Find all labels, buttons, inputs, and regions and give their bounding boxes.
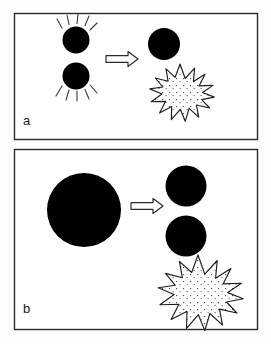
panel-a <box>15 14 258 140</box>
figure-canvas: a b <box>0 0 271 344</box>
panel-a-product-circle <box>148 28 180 60</box>
panel-b-daughter-circle-top <box>166 166 207 207</box>
panel-a-label: a <box>23 114 30 127</box>
panel-a-circle-top <box>63 27 90 54</box>
panel-b-parent-circle <box>47 173 121 247</box>
panel-a-frame <box>15 14 258 140</box>
panel-b-label: b <box>23 302 30 315</box>
panel-a-circle-bottom <box>63 63 90 90</box>
panel-b <box>15 150 258 331</box>
diagram-svg <box>0 0 271 344</box>
panel-b-daughter-circle-bottom <box>166 216 207 257</box>
